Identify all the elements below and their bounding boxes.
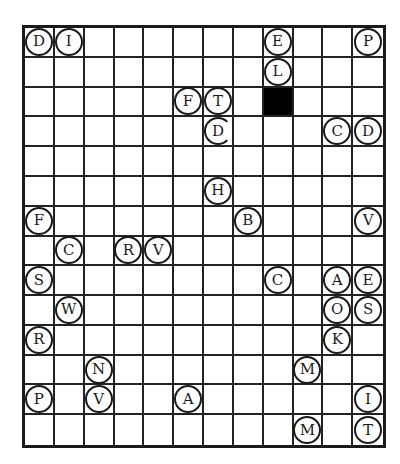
grid-cell[interactable]	[55, 415, 85, 445]
grid-cell[interactable]	[294, 266, 324, 296]
grid-cell[interactable]	[174, 356, 204, 386]
grid-cell[interactable]	[264, 207, 294, 237]
grid-cell[interactable]	[55, 117, 85, 147]
grid-cell[interactable]	[204, 356, 234, 386]
grid-cell[interactable]	[234, 385, 264, 415]
grid-cell[interactable]	[174, 147, 204, 177]
grid-cell[interactable]	[323, 147, 353, 177]
grid-cell[interactable]	[55, 177, 85, 207]
grid-cell[interactable]: S	[25, 266, 55, 296]
letter-token[interactable]: B	[234, 207, 262, 235]
grid-cell[interactable]	[234, 415, 264, 445]
grid-cell[interactable]	[353, 326, 383, 356]
letter-token[interactable]: F	[25, 207, 53, 235]
grid-cell[interactable]	[25, 356, 55, 386]
grid-cell[interactable]: R	[115, 237, 145, 267]
grid-cell[interactable]	[115, 415, 145, 445]
grid-cell[interactable]: P	[353, 28, 383, 58]
letter-token[interactable]: V	[354, 207, 382, 235]
grid-cell[interactable]	[323, 237, 353, 267]
letter-token[interactable]: R	[114, 236, 142, 264]
grid-cell[interactable]	[115, 177, 145, 207]
grid-cell[interactable]	[55, 266, 85, 296]
grid-cell[interactable]	[204, 237, 234, 267]
grid-cell[interactable]	[294, 117, 324, 147]
letter-token[interactable]: W	[55, 296, 83, 324]
grid-cell[interactable]	[85, 58, 115, 88]
grid-cell[interactable]	[294, 177, 324, 207]
grid-cell[interactable]	[85, 266, 115, 296]
grid-cell[interactable]: R	[25, 326, 55, 356]
grid-cell[interactable]	[323, 177, 353, 207]
grid-cell[interactable]	[204, 147, 234, 177]
grid-cell[interactable]	[234, 266, 264, 296]
grid-cell[interactable]	[353, 147, 383, 177]
grid-cell[interactable]	[174, 207, 204, 237]
grid-cell[interactable]	[25, 117, 55, 147]
grid-cell[interactable]	[144, 177, 174, 207]
grid-cell[interactable]	[174, 117, 204, 147]
grid-cell[interactable]	[55, 385, 85, 415]
letter-token[interactable]: T	[354, 416, 382, 444]
grid-cell[interactable]: F	[25, 207, 55, 237]
grid-cell[interactable]	[144, 117, 174, 147]
grid-cell[interactable]: W	[55, 296, 85, 326]
grid-cell[interactable]: H	[204, 177, 234, 207]
letter-token[interactable]: S	[354, 296, 382, 324]
grid-cell[interactable]	[204, 28, 234, 58]
letter-token[interactable]: P	[354, 28, 382, 56]
grid-cell[interactable]	[294, 88, 324, 118]
grid-cell[interactable]	[115, 326, 145, 356]
grid-cell[interactable]: D	[204, 117, 234, 147]
grid-cell[interactable]	[234, 147, 264, 177]
grid-cell[interactable]	[264, 415, 294, 445]
grid-cell[interactable]	[115, 356, 145, 386]
letter-token[interactable]: A	[323, 266, 351, 294]
grid-cell[interactable]	[85, 28, 115, 58]
grid-cell[interactable]	[294, 237, 324, 267]
grid-cell[interactable]	[115, 296, 145, 326]
letter-token[interactable]: V	[85, 385, 113, 413]
grid-cell[interactable]	[174, 296, 204, 326]
letter-token[interactable]: N	[85, 356, 113, 384]
grid-cell[interactable]: T	[353, 415, 383, 445]
grid-cell[interactable]: C	[55, 237, 85, 267]
grid-cell[interactable]	[174, 177, 204, 207]
grid-cell[interactable]	[55, 88, 85, 118]
grid-cell[interactable]: C	[264, 266, 294, 296]
letter-token[interactable]: M	[293, 416, 321, 444]
grid-cell[interactable]: I	[55, 28, 85, 58]
grid-cell[interactable]	[294, 385, 324, 415]
grid-cell[interactable]	[85, 117, 115, 147]
grid-cell[interactable]	[85, 177, 115, 207]
grid-cell[interactable]	[85, 415, 115, 445]
letter-token[interactable]: D	[204, 117, 232, 145]
grid-cell[interactable]	[264, 117, 294, 147]
letter-token[interactable]: T	[204, 87, 232, 115]
grid-cell[interactable]	[55, 147, 85, 177]
grid-cell[interactable]: V	[144, 237, 174, 267]
grid-cell[interactable]	[115, 117, 145, 147]
grid-cell[interactable]	[174, 415, 204, 445]
letter-token[interactable]: I	[55, 28, 83, 56]
grid-cell[interactable]	[144, 415, 174, 445]
grid-cell[interactable]	[323, 356, 353, 386]
letter-token[interactable]: A	[174, 385, 202, 413]
grid-cell[interactable]	[174, 58, 204, 88]
letter-token[interactable]: C	[264, 266, 292, 294]
grid-cell[interactable]: M	[294, 415, 324, 445]
grid-cell[interactable]	[174, 237, 204, 267]
grid-cell[interactable]: A	[323, 266, 353, 296]
letter-token[interactable]: V	[144, 236, 172, 264]
grid-cell[interactable]	[294, 296, 324, 326]
grid-cell[interactable]	[25, 58, 55, 88]
grid-cell[interactable]	[323, 88, 353, 118]
grid-cell[interactable]	[234, 88, 264, 118]
letter-token[interactable]: I	[354, 385, 382, 413]
grid-cell[interactable]	[25, 177, 55, 207]
grid-cell[interactable]	[204, 207, 234, 237]
letter-token[interactable]: R	[25, 326, 53, 354]
grid-cell[interactable]	[234, 237, 264, 267]
grid-cell[interactable]	[55, 207, 85, 237]
grid-cell[interactable]: O	[323, 296, 353, 326]
